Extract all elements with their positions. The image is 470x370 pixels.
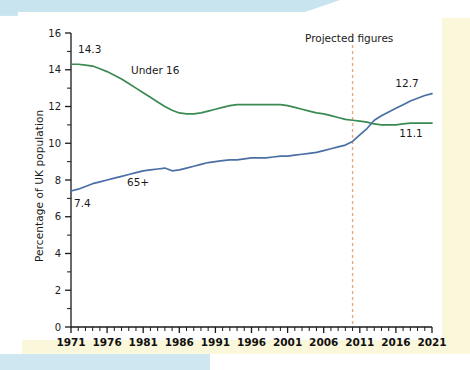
x-tick-label: 2001 xyxy=(273,336,302,348)
y-tick-label: 2 xyxy=(55,285,61,296)
x-tick-label: 1996 xyxy=(237,336,266,348)
x-tick-label: 1991 xyxy=(201,336,230,348)
axes-layer xyxy=(71,33,432,327)
y-tick-label: 10 xyxy=(48,138,61,149)
x-tick-label: 2011 xyxy=(345,336,374,348)
value-label-7-4: 7.4 xyxy=(74,197,91,209)
x-tick-layer: 1971197619811986199119962001200620112016… xyxy=(56,327,446,348)
x-tick-label: 2016 xyxy=(381,336,410,348)
line-chart: 0246810121416 19711976198119861991199620… xyxy=(0,0,470,370)
y-tick-label: 0 xyxy=(55,322,61,333)
x-tick-label: 2021 xyxy=(417,336,446,348)
chart-svg: 0246810121416 19711976198119861991199620… xyxy=(0,0,470,370)
series-label-under-16: Under 16 xyxy=(131,64,180,76)
series-line-under-16 xyxy=(71,64,432,125)
series-line-65- xyxy=(71,94,432,191)
annotation-layer: Under 1665+Projected figures14.37.412.71… xyxy=(74,32,423,209)
y-tick-label: 14 xyxy=(48,64,61,75)
x-tick-label: 1981 xyxy=(129,336,158,348)
value-label-11-1: 11.1 xyxy=(399,127,422,139)
series-label-65-plus: 65+ xyxy=(127,176,149,188)
y-tick-label: 12 xyxy=(48,101,61,112)
value-label-14-3: 14.3 xyxy=(78,43,101,55)
chart-page: Percentage of UK population 024681012141… xyxy=(0,0,470,370)
annotation-projected-figures: Projected figures xyxy=(305,32,393,44)
y-tick-label: 4 xyxy=(55,248,61,259)
x-tick-label: 1971 xyxy=(56,336,85,348)
x-tick-label: 2006 xyxy=(309,336,338,348)
y-tick-layer: 0246810121416 xyxy=(48,28,71,333)
y-tick-label: 16 xyxy=(48,28,61,39)
x-tick-label: 1986 xyxy=(165,336,194,348)
value-label-12-7: 12.7 xyxy=(395,77,418,89)
series-layer xyxy=(71,64,432,191)
y-tick-label: 6 xyxy=(55,211,61,222)
x-tick-label: 1976 xyxy=(92,336,121,348)
y-tick-label: 8 xyxy=(55,175,61,186)
